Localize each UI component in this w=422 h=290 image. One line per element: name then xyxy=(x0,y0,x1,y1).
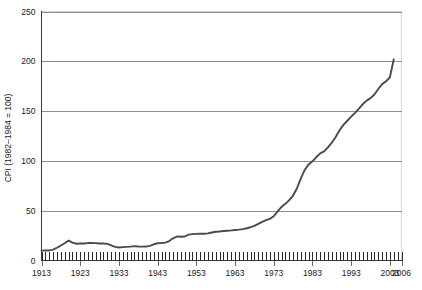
x-tick-label: 2006 xyxy=(392,268,411,278)
y-tick-label: 250 xyxy=(21,7,35,17)
x-tick-label: 1983 xyxy=(303,268,322,278)
y-axis-tick-labels: 050100150200250 xyxy=(21,7,35,266)
x-tick-label: 1993 xyxy=(342,268,361,278)
cpi-line-chart: 050100150200250 191319231933194319531963… xyxy=(0,0,422,290)
x-tick-label: 1913 xyxy=(32,268,51,278)
x-tick-label: 1963 xyxy=(226,268,245,278)
x-axis-minor-ticks xyxy=(43,252,403,261)
gridlines xyxy=(42,13,402,212)
y-tick-label: 150 xyxy=(21,106,35,116)
y-tick-label: 0 xyxy=(31,256,36,266)
series-group xyxy=(42,59,394,250)
x-tick-label: 1923 xyxy=(71,268,90,278)
x-tick-label: 1973 xyxy=(264,268,283,278)
x-tick-label: 1953 xyxy=(187,268,206,278)
x-axis-tick-labels: 1913192319331943195319631973198319932003… xyxy=(32,268,411,278)
y-tick-label: 200 xyxy=(21,56,35,66)
y-tick-label: 50 xyxy=(26,206,36,216)
x-tick-label: 1943 xyxy=(148,268,167,278)
y-axis-title: CPI (1982–1984 = 100) xyxy=(3,94,13,183)
y-tick-label: 100 xyxy=(21,156,35,166)
chart-canvas: 050100150200250 191319231933194319531963… xyxy=(0,0,422,290)
series-line-cpi xyxy=(42,59,394,250)
x-tick-label: 1933 xyxy=(109,268,128,278)
plot-frame xyxy=(42,12,402,261)
